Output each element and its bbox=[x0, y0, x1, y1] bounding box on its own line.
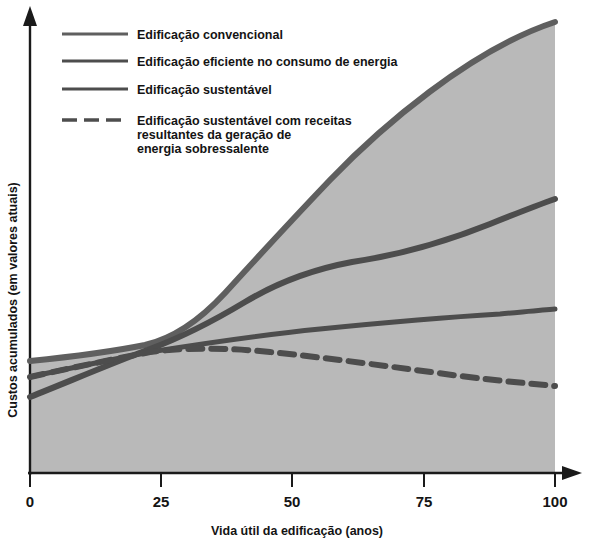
x-axis-title: Vida útil da edificação (anos) bbox=[211, 524, 383, 538]
x-tick-label-50: 50 bbox=[284, 493, 301, 510]
x-tick-label-75: 75 bbox=[416, 493, 433, 510]
legend-label-edificacao-sustentavel: Edificação sustentável bbox=[137, 83, 272, 97]
x-tick-label-25: 25 bbox=[153, 493, 170, 510]
cost-over-lifetime-chart: 0 25 50 75 100 Vida útil da edificação (… bbox=[0, 0, 595, 545]
x-tick-label-100: 100 bbox=[542, 493, 567, 510]
legend-label-edificacao-convencional: Edificação convencional bbox=[137, 28, 283, 42]
y-axis-title: Custos acumulados (em valores atuais) bbox=[6, 182, 20, 418]
legend-label-edificacao-sustentavel-com-receitas-line3: energia sobressalente bbox=[137, 142, 269, 156]
x-tick-label-0: 0 bbox=[26, 493, 34, 510]
legend-label-edificacao-sustentavel-com-receitas-line2: resultantes da geração de bbox=[137, 128, 291, 142]
chart-container: 0 25 50 75 100 Vida útil da edificação (… bbox=[0, 0, 595, 545]
legend-label-edificacao-eficiente: Edificação eficiente no consumo de energ… bbox=[137, 55, 399, 69]
legend-label-edificacao-sustentavel-com-receitas-line1: Edificação sustentável com receitas bbox=[137, 114, 352, 128]
